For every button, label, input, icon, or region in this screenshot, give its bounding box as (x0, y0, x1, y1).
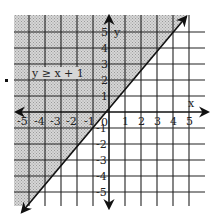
svg-text:-3: -3 (96, 154, 107, 167)
svg-text:-2: -2 (96, 138, 107, 151)
svg-text:1: 1 (101, 90, 108, 103)
svg-text:5: 5 (186, 115, 193, 128)
svg-text:4: 4 (170, 115, 177, 128)
svg-text:-2: -2 (66, 115, 77, 128)
svg-text:-4: -4 (34, 115, 45, 128)
svg-text:4: 4 (101, 42, 108, 55)
x-axis-label: x (188, 97, 195, 110)
inequality-graph: x y 0 -5 -4 -3 -2 -1 1 2 3 4 5 5 4 3 2 1… (0, 0, 222, 219)
svg-text:-3: -3 (50, 115, 61, 128)
svg-text:2: 2 (101, 74, 108, 87)
svg-text:-4: -4 (96, 170, 107, 183)
svg-text:1: 1 (122, 115, 129, 128)
svg-text:-1: -1 (96, 122, 107, 135)
label-pointer-dot (5, 79, 8, 82)
y-axis-label: y (113, 26, 121, 39)
svg-text:-1: -1 (84, 115, 95, 128)
svg-text:-5: -5 (17, 115, 28, 128)
svg-text:2: 2 (138, 115, 145, 128)
inequality-label: y ≥ x + 1 (31, 67, 84, 80)
svg-text:5: 5 (101, 26, 108, 39)
svg-text:3: 3 (154, 115, 161, 128)
svg-text:-5: -5 (96, 186, 107, 199)
svg-text:3: 3 (101, 58, 108, 71)
